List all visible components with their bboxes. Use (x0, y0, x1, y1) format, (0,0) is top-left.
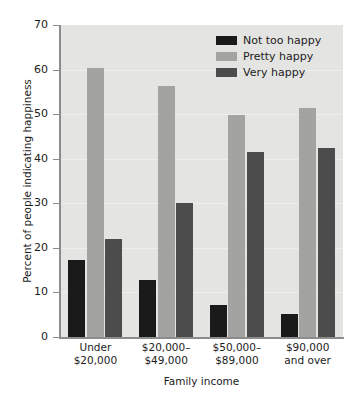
bar[interactable] (176, 203, 193, 337)
legend-item[interactable]: Very happy (216, 66, 321, 79)
x-axis-tick-label-line: $90,000 (272, 341, 343, 354)
x-axis-tick-label: $20,000–$49,000 (131, 341, 202, 375)
x-axis-line (59, 337, 344, 339)
x-axis-tick-label-line: Under (60, 341, 131, 354)
y-axis-line (59, 25, 61, 338)
y-axis-tick (53, 159, 59, 160)
bar[interactable] (105, 239, 122, 338)
legend-swatch-icon (216, 68, 237, 77)
y-axis-tick-label: 0 (8, 331, 48, 342)
bar-group (60, 25, 131, 337)
bar[interactable] (281, 314, 298, 337)
bar-group (131, 25, 202, 337)
y-axis-tick (53, 203, 59, 204)
x-axis-tick-label-line: $20,000 (60, 354, 131, 367)
bar[interactable] (158, 86, 175, 337)
legend-item[interactable]: Pretty happy (216, 50, 321, 63)
bar[interactable] (299, 108, 316, 337)
x-axis-tick-label-line: $89,000 (202, 354, 273, 367)
y-axis-tick-label: 70 (8, 19, 48, 30)
y-axis-tick (53, 25, 59, 26)
legend-swatch-icon (216, 36, 237, 45)
bar[interactable] (210, 305, 227, 337)
y-axis-tick (53, 248, 59, 249)
x-axis-tick-label: $90,000and over (272, 341, 343, 375)
x-axis-tick-label-line: and over (272, 354, 343, 367)
bar[interactable] (318, 148, 335, 337)
x-axis-title: Family income (60, 375, 343, 387)
y-axis-title: Percent of people indicating happiness (21, 66, 33, 296)
chart-figure: 010203040506070 Percent of people indica… (0, 0, 352, 396)
bar[interactable] (68, 260, 85, 337)
bar[interactable] (228, 115, 245, 337)
chart-legend: Not too happyPretty happyVery happy (216, 34, 321, 79)
legend-item[interactable]: Not too happy (216, 34, 321, 47)
x-axis-tick-label-line: $50,000– (202, 341, 273, 354)
legend-label: Not too happy (243, 35, 321, 47)
bar[interactable] (247, 152, 264, 337)
legend-swatch-icon (216, 52, 237, 61)
y-axis-tick (53, 70, 59, 71)
x-axis-tick-label: $50,000–$89,000 (202, 341, 273, 375)
x-axis-tick-label-line: $20,000– (131, 341, 202, 354)
legend-label: Pretty happy (243, 51, 313, 63)
y-axis-tick (53, 114, 59, 115)
x-axis-tick-labels: Under$20,000$20,000–$49,000$50,000–$89,0… (60, 341, 343, 375)
legend-label: Very happy (243, 67, 305, 79)
x-axis-tick-label: Under$20,000 (60, 341, 131, 375)
bar[interactable] (87, 68, 104, 337)
y-axis-tick (53, 337, 59, 338)
y-axis-tick (53, 292, 59, 293)
bar[interactable] (139, 280, 156, 337)
x-axis-tick-label-line: $49,000 (131, 354, 202, 367)
